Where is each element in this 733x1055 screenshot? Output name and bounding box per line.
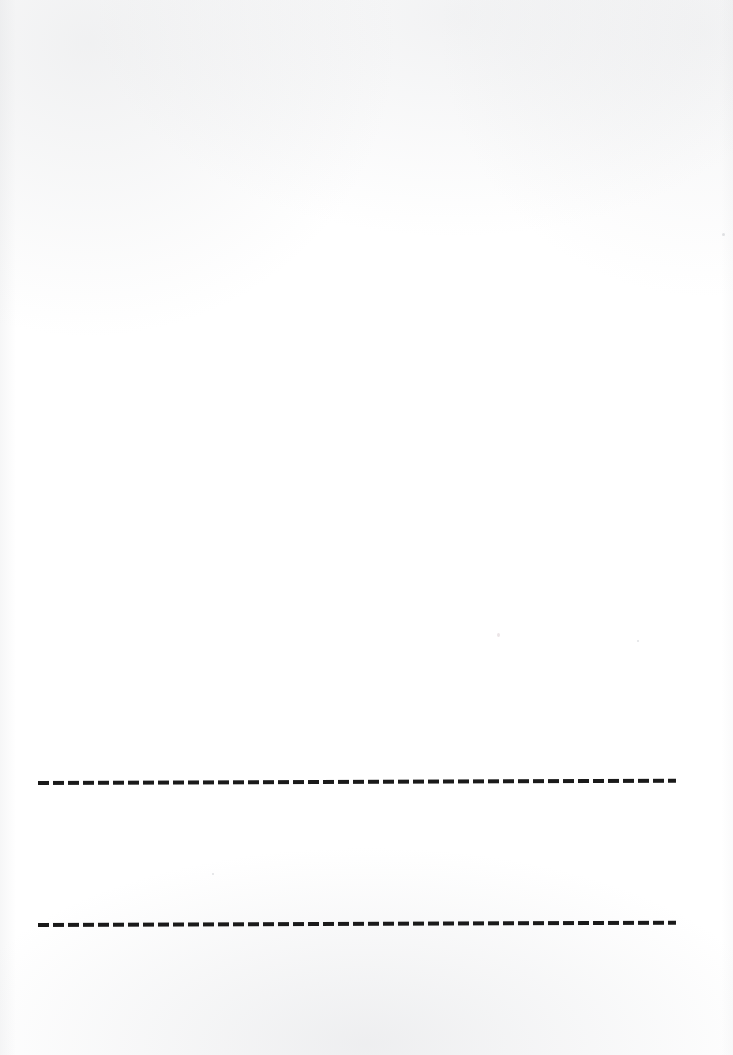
lower-dashed-rule [38,921,676,927]
scan-speck [722,233,725,236]
upper-dashed-rule [38,779,676,785]
paper-texture [0,0,733,1055]
scan-speck [212,873,214,875]
scan-speck [497,633,500,637]
scan-speck [637,640,639,642]
lower-dashed-rule-ink [38,921,676,927]
upper-dashed-rule-ink [38,779,676,785]
scanned-page [0,0,733,1055]
